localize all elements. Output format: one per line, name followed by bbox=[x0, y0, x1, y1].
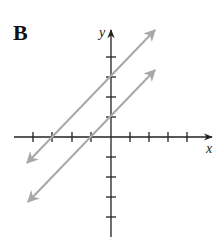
line-y-equals-x-plus-3 bbox=[27, 30, 155, 163]
x-axis-label: x bbox=[205, 141, 213, 156]
y-axis-label: y bbox=[97, 25, 106, 40]
line-y-equals-x-plus-1 bbox=[28, 70, 155, 202]
coordinate-plane: y x bbox=[0, 0, 224, 249]
